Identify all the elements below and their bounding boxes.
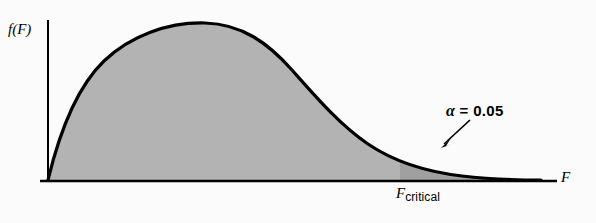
f-distribution-figure: f(F) F Fcritical α = 0.05 [0, 0, 596, 223]
alpha-symbol: α [446, 102, 455, 119]
alpha-annotation: α = 0.05 [446, 103, 504, 119]
alpha-arrow-head [441, 138, 452, 148]
f-critical-base: F [396, 185, 405, 201]
y-axis-label: f(F) [8, 22, 31, 37]
distribution-plot [0, 0, 596, 223]
alpha-value: = 0.05 [455, 102, 503, 119]
f-critical-label: Fcritical [396, 186, 440, 203]
f-critical-subscript: critical [405, 190, 440, 204]
x-axis-label: F [561, 170, 570, 185]
alpha-arrow-shaft [444, 120, 470, 144]
